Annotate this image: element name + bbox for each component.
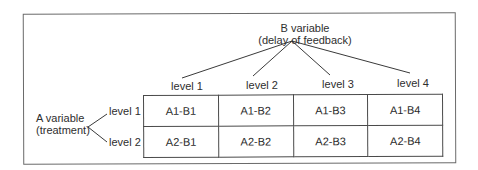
b-level-2-label: level 2	[232, 79, 292, 91]
cell-a1-b2: A1-B2	[218, 95, 293, 126]
grid-row-a-level-1: A1-B1 A1-B2 A1-B3 A1-B4	[144, 94, 443, 126]
b-level-1-label: level 1	[157, 80, 217, 92]
a-variable-title: A variable	[36, 112, 96, 124]
b-variable-title: B variable	[250, 22, 360, 34]
b-variable-subtitle: (delay of feedback)	[250, 34, 360, 46]
a-variable-subtitle: (treatment)	[36, 124, 96, 136]
grid-row-a-level-2: A2-B1 A2-B2 A2-B3 A2-B4	[144, 125, 443, 157]
b-variable-branches	[182, 41, 410, 78]
cell-a1-b4: A1-B4	[368, 94, 443, 125]
b-level-4-label: level 4	[383, 77, 443, 89]
b-level-3-label: level 3	[308, 78, 368, 90]
cell-a2-b4: A2-B4	[368, 125, 443, 156]
cell-a1-b3: A1-B3	[293, 95, 368, 126]
branch-line-b-level-2	[253, 41, 292, 76]
a-variable-heading: A variable (treatment)	[36, 112, 96, 136]
cell-a1-b1: A1-B1	[144, 95, 219, 126]
cell-a2-b1: A2-B1	[144, 126, 219, 157]
cell-a2-b3: A2-B3	[293, 126, 368, 157]
branch-line-b-level-1	[182, 41, 292, 78]
cell-a2-b2: A2-B2	[218, 126, 293, 157]
factorial-design-grid: A1-B1 A1-B2 A1-B3 A1-B4 A2-B1 A2-B2 A2-B…	[143, 94, 443, 158]
b-variable-heading: B variable (delay of feedback)	[250, 22, 360, 46]
